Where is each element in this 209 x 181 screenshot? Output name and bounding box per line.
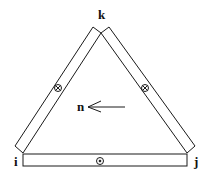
normal-label-n: n: [77, 99, 85, 114]
vertex-label-k: k: [98, 7, 106, 22]
out-of-page-icon: [97, 158, 104, 165]
into-page-icon-left: [55, 85, 62, 92]
triangle-diagram: k i j n: [0, 0, 209, 181]
vertex-label-i: i: [14, 154, 18, 169]
into-page-icon-right: [142, 85, 149, 92]
normal-arrow-icon: [88, 101, 125, 112]
vertex-label-j: j: [193, 154, 198, 169]
bottom-strip: [23, 154, 187, 166]
left-strip: [15, 27, 101, 153]
